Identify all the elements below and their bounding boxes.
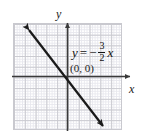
graph-figure: y x (0, 0) y = − 3 2 x	[0, 0, 144, 138]
equation-fraction: 3 2	[98, 41, 105, 63]
x-axis-label: x	[129, 83, 134, 95]
equation-minus-sign: −	[89, 46, 96, 59]
fraction-denominator: 2	[98, 52, 105, 64]
equation-lhs: y	[72, 46, 78, 59]
origin-point-label: (0, 0)	[70, 63, 94, 74]
fraction-numerator: 3	[98, 41, 105, 51]
y-axis-label: y	[56, 8, 61, 20]
equation-equals-sign: =	[80, 46, 87, 59]
line-equation-label: y = − 3 2 x	[72, 41, 113, 63]
equation-variable: x	[107, 46, 113, 59]
